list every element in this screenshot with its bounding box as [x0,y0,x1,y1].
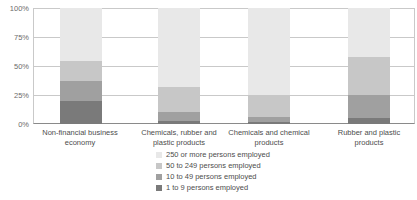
y-tick-label-0: 0% [0,121,29,129]
category-label-2-line-1: products [215,138,323,148]
category-label-3-line-1: products [315,138,417,148]
legend-label-1: 50 to 249 persons employed [166,160,261,171]
chart-legend: 250 or more persons employed 50 to 249 p… [156,149,356,193]
legend-label-3: 1 to 9 persons employed [166,182,248,193]
stacked-bar-chart: 100% 75% 50% 25% 0% Non-financial busine… [0,0,417,200]
legend-swatch-icon-2 [156,174,162,180]
category-label-0: Non-financial business economy [26,128,134,148]
legend-item-1: 50 to 249 persons employed [156,160,356,171]
bar-chemicals-rubber-and-plastic-products [158,8,200,124]
legend-swatch-icon-3 [156,185,162,191]
bar-segment [158,8,200,87]
legend-label-2: 10 to 49 persons employed [166,171,256,182]
y-tick-label-25: 25% [0,92,29,100]
bar-segment [60,61,102,81]
plot-area [33,8,415,124]
legend-item-3: 1 to 9 persons employed [156,182,356,193]
bar-segment [348,118,390,124]
legend-swatch-icon-1 [156,163,162,169]
bar-segment [248,95,290,117]
category-label-0-line-0: Non-financial business [26,128,134,138]
bar-chemicals-and-chemical-products [248,8,290,124]
legend-item-0: 250 or more persons employed [156,149,356,160]
bar-segment [348,95,390,118]
bar-segment [60,8,102,61]
bar-segment [60,101,102,124]
legend-label-0: 250 or more persons employed [166,149,270,160]
bar-segment [348,57,390,95]
y-tick-label-50: 50% [0,63,29,71]
legend-swatch-icon-0 [156,152,162,158]
category-label-2-line-0: Chemicals and chemical [215,128,323,138]
bar-segment [158,121,200,124]
bar-segment [158,112,200,120]
bar-segment [248,8,290,95]
bar-rubber-and-plastic-products [348,8,390,124]
bar-non-financial-business-economy [60,8,102,124]
bar-segment [348,8,390,57]
category-label-3-line-0: Rubber and plastic [315,128,417,138]
y-tick-label-100: 100% [0,5,29,13]
y-tick-label-75: 75% [0,34,29,42]
bar-segment [248,122,290,124]
category-label-3: Rubber and plastic products [315,128,417,148]
legend-item-2: 10 to 49 persons employed [156,171,356,182]
bar-segment [60,81,102,101]
category-label-2: Chemicals and chemical products [215,128,323,148]
category-label-0-line-1: economy [26,138,134,148]
bar-segment [158,87,200,113]
